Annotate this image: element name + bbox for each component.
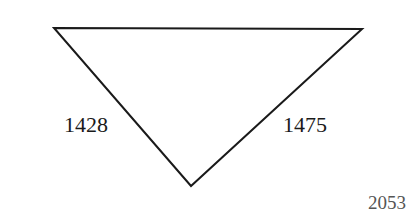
triangle-shape <box>54 28 362 186</box>
page-number: 2053 <box>368 193 406 212</box>
triangle-diagram <box>0 0 409 220</box>
right-side-label: 1475 <box>283 114 327 136</box>
left-side-label: 1428 <box>64 114 108 136</box>
